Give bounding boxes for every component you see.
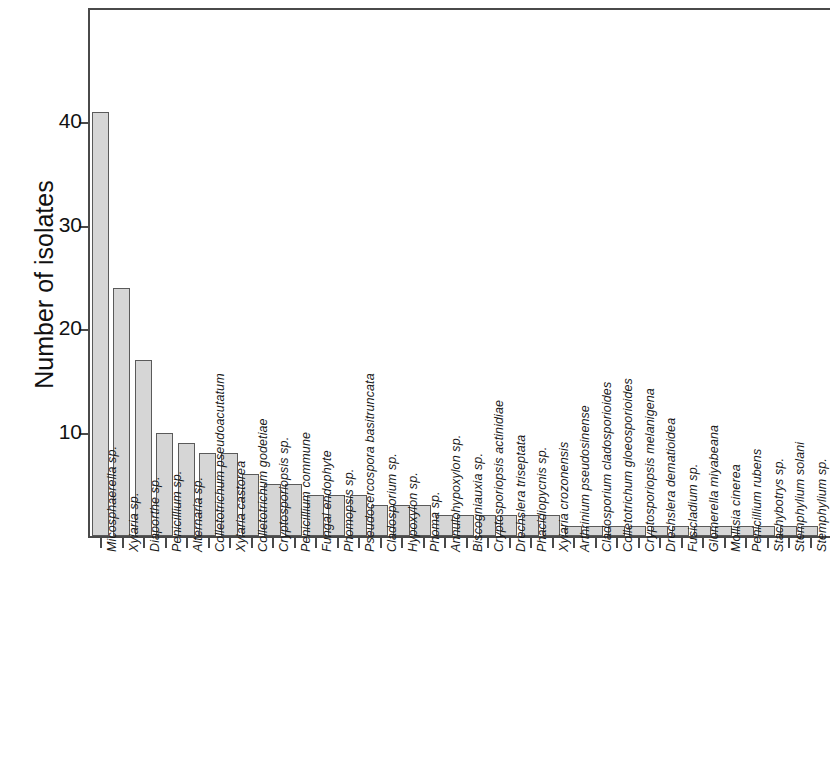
x-tick-label: Fusicladium sp. — [686, 464, 700, 552]
x-tick-label: Colletotrichum gloeosporioides — [621, 378, 635, 552]
y-axis-title: Number of isolates — [30, 135, 59, 435]
x-tick-label: Xylaria crozonensis — [557, 442, 571, 552]
x-tick-label: Diaporthe sp. — [148, 476, 162, 552]
x-tick-label: Cryptosporiopsis actinidiae — [492, 400, 506, 552]
x-tick-label: Phomopsis sp. — [342, 469, 356, 552]
x-tick-label: Colletotrichum pseudoacutatum — [213, 373, 227, 552]
x-tick-label: Penicillium commune — [299, 432, 313, 552]
x-tick-label: Biscogniauxia sp. — [471, 453, 485, 552]
x-tick-label: Stemphylium sp. — [815, 458, 829, 552]
y-axis-line — [88, 8, 90, 538]
x-tick-label: Penicillium sp. — [170, 471, 184, 552]
x-tick-label: Micosphaerella sp. — [105, 446, 119, 552]
x-tick-label: Arthrinium pseudosinense — [578, 405, 592, 552]
x-tick-label: Phacidiopycnis sp. — [535, 447, 549, 552]
x-tick-label: Xylaria castorea — [234, 461, 248, 552]
x-tick-label: Annulohypoxylon sp. — [449, 435, 463, 552]
x-tick-label: Penicillium rubens — [750, 449, 764, 552]
y-tick-label: 40 — [59, 109, 82, 133]
x-tick-label: Fungal endophyte — [320, 450, 334, 552]
x-tick-label: Cryptosporiopsis melanigena — [643, 388, 657, 552]
x-tick-label: Stachybotrys sp. — [772, 458, 786, 552]
y-tick-label: 30 — [59, 213, 82, 237]
x-tick-label: Colletotrichum godetiae — [256, 418, 270, 552]
bar-chart-figure: Number of isolates 10203040 Micosphaerel… — [0, 0, 830, 760]
x-tick-label: Pseudocercospora basitruncata — [363, 373, 377, 552]
x-tick-label: Drechslera dematioidea — [664, 418, 678, 552]
x-tick-label: Phoma sp. — [428, 491, 442, 552]
x-tick-label: Cladosporium cladosporioides — [600, 382, 614, 552]
x-tick-label: Hypoxylon sp. — [406, 472, 420, 552]
x-tick-label: Xylaria sp. — [127, 493, 141, 552]
y-tick-label: 10 — [59, 420, 82, 444]
x-tick-label: Glomerella miyabeana — [707, 425, 721, 552]
x-tick-label: Alternaria sp. — [191, 477, 205, 552]
y-tick-label: 20 — [59, 316, 82, 340]
x-axis-labels: Micosphaerella sp.Xylaria sp.Diaporthe s… — [88, 538, 830, 760]
x-tick-label: Cryptosporiopsis sp. — [277, 437, 291, 552]
x-tick-label: Stemphylium solani — [793, 442, 807, 552]
plot-frame-top-line — [88, 8, 830, 10]
x-tick-label: Mollisia cinerea — [729, 464, 743, 552]
x-tick-label: Drechslera triseptata — [514, 435, 528, 552]
x-tick-label: Cladosporium sp. — [385, 453, 399, 552]
